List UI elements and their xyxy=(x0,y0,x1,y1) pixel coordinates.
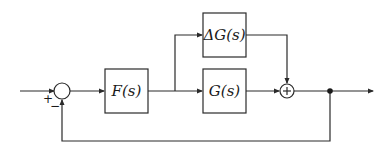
feedback-line xyxy=(62,91,330,141)
minus-sign: − xyxy=(50,99,60,113)
block-f-label: F(s) xyxy=(111,82,142,100)
branch-to-dg-line xyxy=(175,35,202,91)
block-delta-g-label: ΔG(s) xyxy=(202,26,245,44)
dg-to-sum2-line xyxy=(246,35,287,83)
block-g-label: G(s) xyxy=(209,82,241,100)
block-diagram: F(s) G(s) ΔG(s) + − xyxy=(0,0,391,151)
output-branch-dot xyxy=(327,88,333,94)
summing-junction-1 xyxy=(54,83,70,99)
